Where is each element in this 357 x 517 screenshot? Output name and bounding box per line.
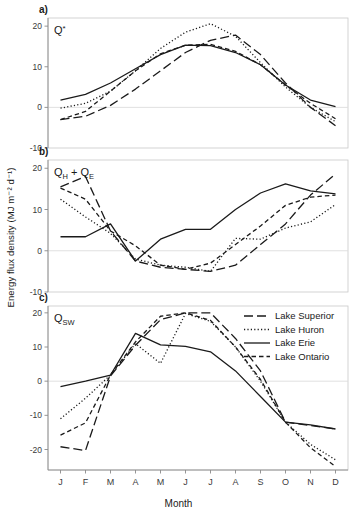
- x-tick-label-o-9: O: [282, 477, 289, 487]
- series-line-lake-huron: [61, 314, 336, 460]
- x-tick-label-j-0: J: [58, 477, 63, 487]
- legend-label-lake-ontario: Lake Ontario: [275, 351, 329, 362]
- panel-title-a: Q*: [54, 24, 66, 36]
- chart-svg: -1001020a)Q*-1001020b)QH + QE-20-1001020…: [0, 0, 357, 517]
- x-tick-label-s-8: S: [257, 477, 263, 487]
- panel-title-c: QSW: [54, 312, 76, 327]
- x-tick-label-d-11: D: [332, 477, 339, 487]
- series-line-lake-erie: [61, 184, 336, 261]
- figure-panel-chart: Energy flux density (MJ m⁻² d⁻¹) -100102…: [0, 0, 357, 517]
- y-tick-label: 0: [37, 102, 42, 112]
- panel-title-b: QH + QE: [54, 166, 94, 181]
- y-tick-label: 10: [33, 205, 43, 215]
- y-tick-label: 0: [37, 376, 42, 386]
- x-tick-label-m-4: M: [157, 477, 165, 487]
- y-tick-label: 20: [33, 308, 43, 318]
- x-axis-label: Month: [0, 498, 357, 509]
- y-axis-label-container: Energy flux density (MJ m⁻² d⁻¹): [0, 150, 20, 330]
- x-tick-label-a-7: A: [232, 477, 238, 487]
- x-tick-label-j-5: J: [183, 477, 188, 487]
- series-line-lake-huron: [61, 24, 336, 122]
- y-tick-label: 10: [33, 342, 43, 352]
- panel-letter-b: b): [39, 146, 48, 157]
- series-line-lake-superior: [61, 174, 336, 271]
- x-tick-label-a-3: A: [132, 477, 138, 487]
- legend-label-lake-erie: Lake Erie: [275, 337, 315, 348]
- series-line-lake-erie: [61, 45, 336, 106]
- panel-b: -1001020b)QH + QE: [30, 146, 348, 297]
- y-tick-label: -10: [30, 410, 43, 420]
- x-tick-label-j-6: J: [208, 477, 213, 487]
- y-tick-label: 20: [33, 163, 43, 173]
- y-tick-label: 0: [37, 246, 42, 256]
- x-tick-label-m-2: M: [107, 477, 115, 487]
- series-line-lake-superior: [61, 35, 336, 126]
- panel-a: -1001020a)Q*: [30, 4, 348, 153]
- series-line-lake-ontario: [61, 313, 336, 467]
- panel-letter-c: c): [39, 292, 48, 303]
- y-tick-label: 10: [33, 62, 43, 72]
- panel-frame-a: [48, 18, 348, 148]
- y-tick-label: 20: [33, 21, 43, 31]
- series-line-lake-huron: [61, 199, 336, 271]
- y-axis-label: Energy flux density (MJ m⁻² d⁻¹): [5, 148, 16, 328]
- series-line-lake-ontario: [61, 44, 336, 119]
- panel-letter-a: a): [39, 4, 48, 15]
- x-tick-label-n-10: N: [307, 477, 314, 487]
- legend-label-lake-superior: Lake Superior: [275, 310, 334, 321]
- x-tick-label-f-1: F: [83, 477, 89, 487]
- legend: Lake SuperiorLake HuronLake ErieLake Ont…: [244, 310, 334, 362]
- legend-label-lake-huron: Lake Huron: [275, 324, 324, 335]
- y-tick-label: -20: [30, 445, 43, 455]
